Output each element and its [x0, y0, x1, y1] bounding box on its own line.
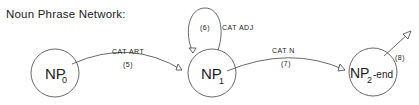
noun-phrase-network-diagram: NP 0 NP 1 NP 2 -end CAT ART (5) (6) CAT …: [0, 0, 419, 105]
arc-number-6: (6): [200, 24, 210, 32]
arc-exit: [384, 34, 408, 56]
arc-label-cat-adj: CAT ADJ: [222, 24, 254, 31]
arrowhead-icon: [338, 64, 345, 71]
arc-label-cat-art: CAT ART: [112, 48, 145, 55]
node-np0-sub: 0: [62, 75, 67, 85]
arc-number-5: (5): [123, 61, 133, 69]
arrowhead-icon: [189, 48, 196, 53]
node-np2-suffix: -end: [373, 69, 393, 80]
arrowhead-icon: [176, 64, 182, 70]
arc-label-cat-n: CAT N: [272, 47, 295, 54]
node-np2-sub: 2: [367, 75, 372, 85]
arc-number-7: (7): [281, 60, 291, 68]
node-np1-sub: 1: [219, 76, 224, 86]
arc-number-8: (8): [395, 54, 405, 62]
